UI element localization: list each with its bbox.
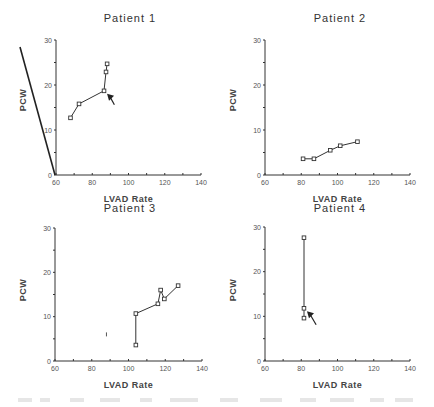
x-tick-label: 60 — [52, 179, 60, 186]
x-tick-label: 100 — [332, 179, 344, 186]
data-series-line — [136, 286, 178, 345]
y-tick-label: 20 — [253, 268, 261, 275]
x-tick-label: 120 — [159, 179, 171, 186]
data-point-marker — [134, 343, 138, 347]
chart-panel-4: Patient 460801001201400102030LVAD RatePC… — [228, 202, 416, 390]
y-tick-label: 0 — [47, 358, 51, 365]
chart-title: Patient 2 — [314, 12, 366, 24]
figure-caption — [18, 398, 413, 402]
x-tick-label: 80 — [297, 365, 305, 372]
chart-panel-3: Patient 360801001201400102030LVAD RatePC… — [18, 202, 208, 390]
x-tick-label: 80 — [88, 365, 96, 372]
x-tick-label: 60 — [51, 365, 59, 372]
y-tick-label: 30 — [43, 225, 51, 232]
y-tick-label: 0 — [48, 172, 52, 179]
y-tick-label: 30 — [253, 224, 261, 231]
x-tick-label: 120 — [368, 179, 380, 186]
chart-panel-2: Patient 260801001201400102030LVAD RatePC… — [228, 12, 416, 204]
y-tick-label: 20 — [43, 269, 51, 276]
x-tick-label: 120 — [368, 365, 380, 372]
x-tick-label: 100 — [123, 179, 135, 186]
y-axis-label: PCW — [18, 279, 28, 302]
y-axis-label: PCW — [228, 89, 238, 112]
chart-title: Patient 4 — [314, 202, 366, 214]
x-tick-label: 80 — [88, 179, 96, 186]
x-tick-label: 60 — [261, 365, 269, 372]
y-tick-label: 10 — [253, 127, 261, 134]
chart-title: Patient 3 — [104, 202, 156, 214]
data-point-marker — [356, 140, 360, 144]
data-point-marker — [156, 302, 160, 306]
y-tick-label: 20 — [44, 82, 52, 89]
x-tick-label: 100 — [332, 365, 344, 372]
y-tick-label: 10 — [44, 127, 52, 134]
x-tick-label: 140 — [404, 365, 416, 372]
data-point-marker — [338, 144, 342, 148]
data-point-marker — [104, 70, 108, 74]
y-axis-label: PCW — [228, 279, 238, 302]
x-tick-label: 100 — [123, 365, 135, 372]
data-point-marker — [105, 62, 109, 66]
x-tick-label: 60 — [261, 179, 269, 186]
data-series-line — [71, 64, 108, 118]
x-tick-label: 120 — [159, 365, 171, 372]
arrow-pointer-icon — [107, 94, 114, 105]
chart-title: Patient 1 — [104, 12, 156, 24]
data-point-marker — [176, 284, 180, 288]
data-point-marker — [302, 306, 306, 310]
data-point-marker — [328, 148, 332, 152]
data-point-marker — [302, 236, 306, 240]
y-tick-label: 0 — [257, 172, 261, 179]
data-point-marker — [102, 89, 106, 93]
data-point-marker — [302, 316, 306, 320]
x-axis-label: LVAD Rate — [104, 380, 154, 390]
data-point-marker — [159, 288, 163, 292]
x-tick-label: 140 — [404, 179, 416, 186]
data-point-marker — [163, 297, 167, 301]
data-point-marker — [301, 157, 305, 161]
y-tick-label: 10 — [43, 313, 51, 320]
x-tick-label: 80 — [297, 179, 305, 186]
arrow-pointer-icon — [307, 311, 316, 325]
y-tick-label: 30 — [44, 37, 52, 44]
y-tick-label: 10 — [253, 313, 261, 320]
y-tick-label: 0 — [257, 358, 261, 365]
y-axis-label: PCW — [18, 89, 28, 112]
y-tick-label: 30 — [253, 37, 261, 44]
data-point-marker — [134, 312, 138, 316]
data-point-marker — [69, 116, 73, 120]
x-tick-label: 140 — [196, 365, 208, 372]
figure-canvas: Patient 160801001201400102030LVAD RatePC… — [0, 0, 434, 407]
chart-panel-1: Patient 160801001201400102030LVAD RatePC… — [18, 12, 207, 204]
y-tick-label: 20 — [253, 82, 261, 89]
x-tick-label: 140 — [195, 179, 207, 186]
data-point-marker — [77, 102, 81, 106]
x-axis-label: LVAD Rate — [313, 380, 363, 390]
data-point-marker — [312, 157, 316, 161]
